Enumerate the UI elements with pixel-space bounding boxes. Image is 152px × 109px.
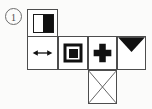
- crossed-diagonals-icon: [89, 71, 116, 103]
- plus-cross-icon: [89, 37, 116, 69]
- half-filled-rectangle-cell: [27, 9, 58, 37]
- filled-down-triangle-icon: [118, 37, 145, 69]
- double-arrow-cell: [27, 36, 58, 70]
- half-filled-rectangle-icon: [33, 14, 54, 33]
- concentric-squares-cell: [58, 36, 88, 70]
- item-number-badge: 1: [5, 8, 22, 25]
- inner-filled-square: [69, 49, 78, 58]
- down-triangle-cell: [117, 36, 146, 70]
- cube-net-figure: 1: [0, 0, 152, 109]
- double-headed-arrow-icon: [28, 37, 57, 69]
- crossed-diagonals-cell: [88, 70, 117, 104]
- concentric-squares-icon: [64, 44, 83, 63]
- plus-cross-cell: [88, 36, 117, 70]
